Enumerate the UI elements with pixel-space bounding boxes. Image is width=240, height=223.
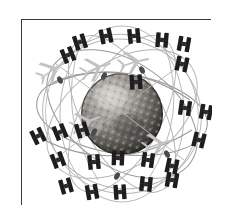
constellation-illustration [22,20,212,206]
illustration-frame [21,19,211,205]
earth-surface-texture [81,73,163,155]
figure-root: Satellite constellation orbiting Earth E… [0,0,240,223]
earth-globe [81,73,163,155]
